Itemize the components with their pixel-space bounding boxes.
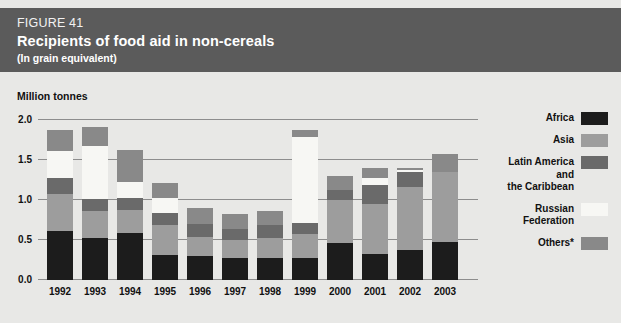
bar-segment-russian-federation-1999 — [292, 137, 318, 223]
legend-swatch-asia — [581, 134, 608, 147]
chart-plot-area: 0.00.51.01.52.0 199219931994199519961997… — [38, 120, 478, 280]
figure-subtitle: (In grain equivalent) — [17, 51, 621, 66]
bar-column-1997[interactable] — [222, 214, 248, 280]
x-tick-label-1997: 1997 — [215, 286, 255, 297]
y-tick-label-0.5: 0.5 — [18, 234, 32, 245]
bar-column-2000[interactable] — [327, 176, 353, 280]
bar-segment-asia-1993 — [82, 211, 108, 237]
bar-segment-others-1992 — [47, 130, 73, 152]
x-tick-label-2002: 2002 — [390, 286, 430, 297]
chart-legend: AfricaAsiaLatin America and the Caribbea… — [498, 112, 608, 259]
bar-segment-asia-1996 — [187, 237, 213, 256]
x-tick-label-2003: 2003 — [425, 286, 465, 297]
legend-swatch-others — [581, 237, 608, 250]
bar-column-1998[interactable] — [257, 211, 283, 280]
bar-segment-africa-1996 — [187, 256, 213, 280]
bar-column-1995[interactable] — [152, 183, 178, 280]
x-tick-label-1998: 1998 — [250, 286, 290, 297]
x-tick-label-1993: 1993 — [75, 286, 115, 297]
bar-segment-asia-2000 — [327, 200, 353, 243]
bar-segment-latin-america-and-the-caribbean-1998 — [257, 225, 283, 238]
bar-segment-asia-1994 — [117, 210, 143, 232]
bar-segment-africa-1993 — [82, 238, 108, 280]
bar-column-2003[interactable] — [432, 154, 458, 280]
bar-column-2002[interactable] — [397, 168, 423, 280]
bar-segment-africa-1992 — [47, 231, 73, 280]
bar-segment-latin-america-and-the-caribbean-1993 — [82, 199, 108, 211]
legend-label-latin_america: Latin America and the Caribbean — [507, 156, 581, 194]
bar-segment-others-1997 — [222, 214, 248, 228]
legend-label-asia: Asia — [553, 134, 581, 147]
bar-segment-russian-federation-1994 — [117, 182, 143, 199]
bar-segment-africa-2002 — [397, 250, 423, 280]
bar-segment-others-2003 — [432, 154, 458, 172]
bar-segment-asia-1999 — [292, 234, 318, 258]
stacked-bars-layer — [38, 120, 478, 280]
bar-segment-others-2000 — [327, 176, 353, 190]
bar-segment-russian-federation-2001 — [362, 178, 388, 185]
y-tick-label-1.0: 1.0 — [18, 194, 32, 205]
bar-column-1996[interactable] — [187, 208, 213, 280]
y-tick-label-2.0: 2.0 — [18, 114, 32, 125]
bar-segment-others-1993 — [82, 127, 108, 145]
bar-segment-africa-1999 — [292, 258, 318, 280]
y-tick-label-0.0: 0.0 — [18, 274, 32, 285]
legend-label-others: Others* — [538, 237, 581, 250]
x-tick-label-1992: 1992 — [40, 286, 80, 297]
bar-segment-russian-federation-1995 — [152, 198, 178, 213]
bar-segment-asia-2001 — [362, 204, 388, 254]
x-tick-label-2001: 2001 — [355, 286, 395, 297]
x-tick-label-1995: 1995 — [145, 286, 185, 297]
x-tick-label-1996: 1996 — [180, 286, 220, 297]
bar-segment-latin-america-and-the-caribbean-2002 — [397, 172, 423, 187]
bar-segment-others-1999 — [292, 130, 318, 137]
x-tick-label-2000: 2000 — [320, 286, 360, 297]
bar-segment-africa-2001 — [362, 254, 388, 280]
legend-item-asia[interactable]: Asia — [498, 134, 608, 147]
bar-segment-asia-1998 — [257, 238, 283, 258]
bar-segment-africa-1998 — [257, 258, 283, 280]
legend-swatch-russian_federation — [581, 203, 608, 216]
x-tick-label-1999: 1999 — [285, 286, 325, 297]
bar-segment-latin-america-and-the-caribbean-2001 — [362, 185, 388, 204]
figure-header-band: FIGURE 41 Recipients of food aid in non-… — [0, 8, 621, 72]
bar-segment-asia-1997 — [222, 240, 248, 258]
bar-segment-asia-1995 — [152, 225, 178, 255]
legend-swatch-africa — [581, 112, 608, 125]
legend-item-others[interactable]: Others* — [498, 237, 608, 250]
bar-column-1994[interactable] — [117, 150, 143, 280]
bar-segment-others-1998 — [257, 211, 283, 225]
legend-item-russian_federation[interactable]: Russian Federation — [498, 203, 608, 228]
bar-column-1993[interactable] — [82, 127, 108, 280]
bar-segment-africa-1994 — [117, 233, 143, 280]
bar-segment-others-1995 — [152, 183, 178, 197]
bar-segment-africa-2000 — [327, 243, 353, 280]
legend-item-latin_america[interactable]: Latin America and the Caribbean — [498, 156, 608, 194]
bar-column-2001[interactable] — [362, 168, 388, 280]
figure-title: Recipients of food aid in non-cereals — [17, 31, 621, 51]
bar-column-1992[interactable] — [47, 130, 73, 280]
bar-segment-others-1994 — [117, 150, 143, 182]
bar-column-1999[interactable] — [292, 130, 318, 280]
bar-segment-latin-america-and-the-caribbean-1994 — [117, 198, 143, 210]
bar-segment-latin-america-and-the-caribbean-1995 — [152, 213, 178, 225]
bar-segment-africa-2003 — [432, 242, 458, 280]
bar-segment-russian-federation-1992 — [47, 151, 73, 177]
figure-number: FIGURE 41 — [17, 15, 621, 31]
bar-segment-latin-america-and-the-caribbean-2000 — [327, 190, 353, 200]
x-tick-label-1994: 1994 — [110, 286, 150, 297]
bar-segment-latin-america-and-the-caribbean-1999 — [292, 223, 318, 233]
legend-swatch-latin_america — [581, 156, 608, 169]
legend-label-russian_federation: Russian Federation — [523, 203, 581, 228]
bar-segment-latin-america-and-the-caribbean-1992 — [47, 178, 73, 195]
bar-segment-others-1996 — [187, 208, 213, 224]
bar-segment-africa-1997 — [222, 258, 248, 280]
bar-segment-latin-america-and-the-caribbean-1997 — [222, 229, 248, 240]
bar-segment-asia-2003 — [432, 172, 458, 242]
y-axis-unit-label: Million tonnes — [17, 90, 88, 102]
legend-label-africa: Africa — [546, 112, 581, 125]
legend-item-africa[interactable]: Africa — [498, 112, 608, 125]
bar-segment-russian-federation-1993 — [82, 146, 108, 200]
bar-segment-asia-1992 — [47, 194, 73, 231]
y-tick-label-1.5: 1.5 — [18, 154, 32, 165]
